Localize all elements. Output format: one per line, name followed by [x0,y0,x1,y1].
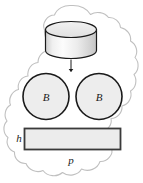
rectangle-width-label: p [67,154,74,166]
rectangle-body [25,129,121,150]
rectangle-shape [25,129,121,150]
diagram-canvas: B B h p [0,0,143,183]
circle-right-label: B [96,91,103,103]
rectangle-height-label: h [16,132,22,144]
figure-container: B B h p [0,0,143,183]
circle-right: B [76,74,122,120]
circle-left-label: B [43,91,50,103]
cylinder-top-ellipse [46,22,97,38]
circle-left: B [23,74,69,120]
cylinder-shape [46,22,97,59]
